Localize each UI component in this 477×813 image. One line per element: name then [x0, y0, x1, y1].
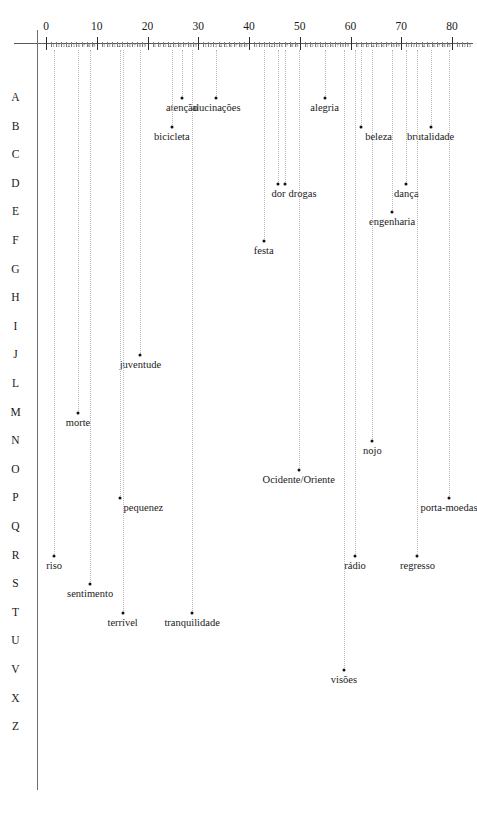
data-point-label: porta-moedas: [420, 503, 477, 514]
data-point-label: morte: [66, 418, 91, 429]
axis-tick-minor-number: 3: [316, 44, 318, 48]
data-point[interactable]: [416, 554, 419, 557]
axis-tick-minor-number: 5: [225, 44, 227, 48]
data-point-label: alucinações: [192, 103, 241, 114]
row-label-z: Z: [0, 721, 31, 733]
data-point-label: Ocidente/Oriente: [263, 475, 335, 486]
data-point[interactable]: [283, 182, 286, 185]
data-point[interactable]: [139, 354, 142, 357]
data-point-label: engenharia: [369, 217, 415, 228]
axis-tick-major: [198, 37, 199, 50]
data-point[interactable]: [170, 125, 173, 128]
axis-tick-minor-number: 9: [397, 44, 399, 48]
point-guide-line: [172, 50, 173, 127]
axis-tick-minor-number: 2: [57, 44, 59, 48]
data-point-label: bicicleta: [154, 132, 190, 143]
data-point[interactable]: [429, 125, 432, 128]
row-label-s: S: [0, 578, 31, 590]
data-point[interactable]: [391, 211, 394, 214]
point-guide-line: [182, 50, 183, 98]
point-guide-line: [406, 50, 407, 184]
data-point[interactable]: [342, 669, 345, 672]
axis-tick-minor-number: 2: [108, 44, 110, 48]
point-guide-line: [299, 50, 300, 470]
data-point[interactable]: [262, 240, 265, 243]
point-guide-line: [325, 50, 326, 98]
axis-tick-label: 60: [345, 21, 357, 33]
data-point[interactable]: [277, 182, 280, 185]
data-point[interactable]: [53, 554, 56, 557]
axis-tick-minor-number: 5: [276, 44, 278, 48]
axis-tick-minor-number: 6: [281, 44, 283, 48]
data-point[interactable]: [360, 125, 363, 128]
data-point[interactable]: [118, 497, 121, 500]
point-guide-line: [78, 50, 79, 413]
axis-tick-minor-number: 4: [68, 44, 70, 48]
axis-tick-minor-number: 3: [469, 44, 471, 48]
row-label-t: T: [0, 607, 31, 619]
data-point[interactable]: [371, 440, 374, 443]
axis-tick-minor-number: 4: [220, 44, 222, 48]
data-point[interactable]: [323, 97, 326, 100]
row-label-p: P: [0, 493, 31, 505]
point-guide-line: [54, 50, 55, 556]
data-point[interactable]: [405, 182, 408, 185]
point-guide-line: [285, 50, 286, 184]
axis-tick-minor-number: 2: [311, 44, 313, 48]
data-point-label: drogas: [289, 189, 317, 200]
axis-tick-minor-number: 5: [326, 44, 328, 48]
axis-tick-minor-number: 5: [377, 44, 379, 48]
axis-tick-minor-number: 4: [169, 44, 171, 48]
axis-tick-minor-number: 9: [194, 44, 196, 48]
data-point[interactable]: [191, 611, 194, 614]
axis-tick-label: 50: [294, 21, 306, 33]
data-point[interactable]: [215, 97, 218, 100]
axis-tick-minor-number: 4: [423, 44, 425, 48]
data-point-label: nojo: [363, 446, 382, 457]
axis-tick-minor-number: 9: [93, 44, 95, 48]
axis-tick-minor-number: 6: [128, 44, 130, 48]
point-guide-line: [449, 50, 450, 498]
axis-tick-minor-number: 8: [291, 44, 293, 48]
axis-tick-major: [401, 37, 402, 50]
data-point[interactable]: [121, 611, 124, 614]
axis-tick-label: 10: [91, 21, 103, 33]
point-guide-line: [417, 50, 418, 556]
axis-tick-minor-number: 9: [347, 44, 349, 48]
axis-tick-minor-number: 1: [255, 44, 257, 48]
axis-tick-minor-number: 2: [463, 44, 465, 48]
axis-tick-minor-number: 3: [367, 44, 369, 48]
data-point[interactable]: [76, 411, 79, 414]
axis-tick-minor-number: 3: [63, 44, 65, 48]
vertical-axis-line: [37, 30, 38, 790]
axis-tick-minor-number: 1: [205, 44, 207, 48]
data-point-label: terrível: [107, 618, 137, 629]
data-point[interactable]: [89, 583, 92, 586]
axis-tick-minor-number: 7: [337, 44, 339, 48]
data-point[interactable]: [181, 97, 184, 100]
axis-tick-minor-number: 3: [164, 44, 166, 48]
row-label-i: I: [0, 321, 31, 333]
axis-tick-minor-number: 1: [408, 44, 410, 48]
data-point[interactable]: [447, 497, 450, 500]
data-point-label: sentimento: [67, 589, 113, 600]
axis-tick-label: 30: [193, 21, 205, 33]
row-label-v: V: [0, 664, 31, 676]
data-point[interactable]: [297, 468, 300, 471]
point-guide-line: [120, 50, 121, 498]
point-guide-line: [278, 50, 279, 184]
data-point[interactable]: [354, 554, 357, 557]
axis-tick-minor-number: 7: [387, 44, 389, 48]
point-guide-line: [192, 50, 193, 613]
axis-tick-minor-number: 7: [134, 44, 136, 48]
data-point-label: pequenez: [124, 503, 164, 514]
axis-tick-minor-number: 8: [240, 44, 242, 48]
row-label-h: H: [0, 292, 31, 304]
axis-tick-minor-number: 2: [362, 44, 364, 48]
axis-tick-major: [351, 37, 352, 50]
axis-tick-minor-number: 7: [286, 44, 288, 48]
point-guide-line: [344, 50, 345, 670]
point-guide-line: [372, 50, 373, 441]
axis-tick-major: [46, 37, 47, 50]
data-point-label: beleza: [365, 132, 392, 143]
